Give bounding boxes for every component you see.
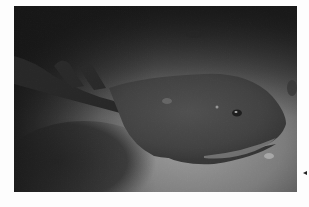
- ray-photo: [14, 6, 297, 192]
- triangle-left-icon[interactable]: [303, 171, 307, 175]
- page: [0, 0, 309, 207]
- ray-photo-image: [14, 6, 297, 192]
